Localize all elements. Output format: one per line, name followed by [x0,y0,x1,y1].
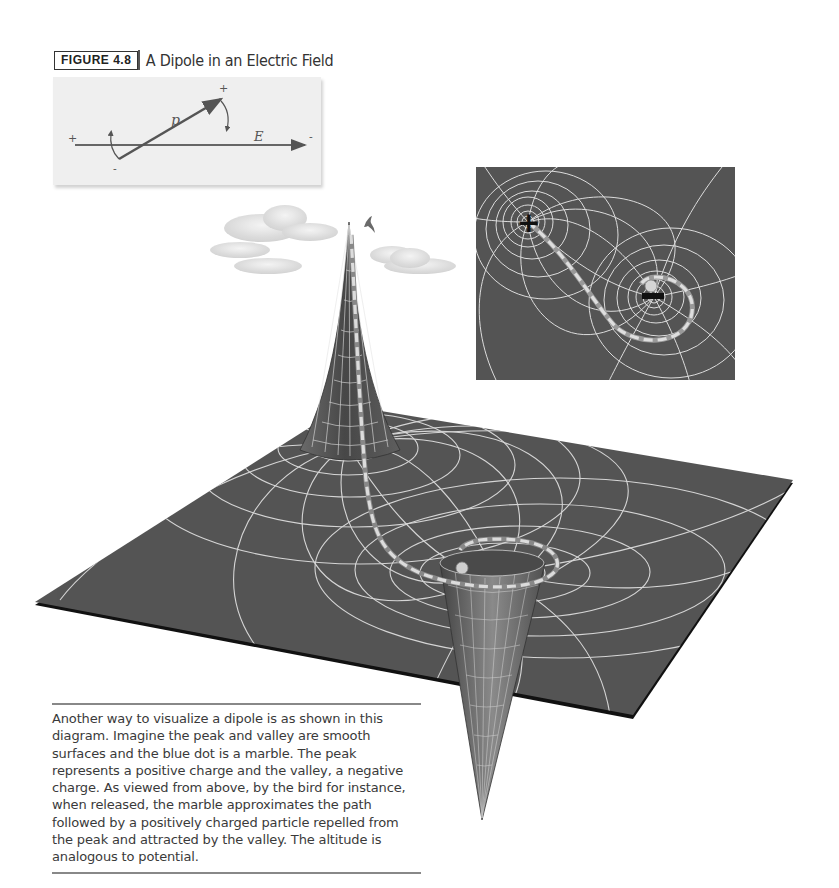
caption-block: Another way to visualize a dipole is as … [52,703,422,874]
caption-bottom-rule [52,872,421,874]
bird-icon [364,216,375,233]
ground-plane [35,392,805,720]
top-view-field-map: + [476,167,735,380]
clouds [210,205,456,274]
marble [456,562,468,574]
caption-text: Another way to visualize a dipole is as … [52,705,422,872]
negative-charge-symbol [642,293,664,299]
marble-top-view [645,280,657,292]
positive-charge-symbol: + [517,206,540,239]
